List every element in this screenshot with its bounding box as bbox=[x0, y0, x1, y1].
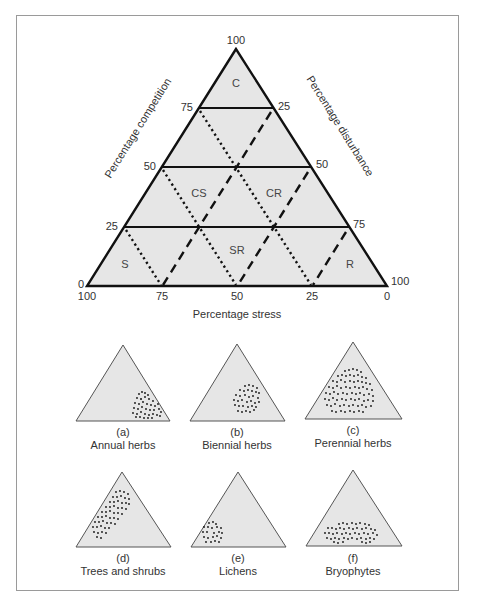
tick-stress-75: 75 bbox=[156, 290, 168, 302]
zone-sr: SR bbox=[229, 244, 244, 256]
tick-stress-100: 100 bbox=[78, 290, 96, 302]
tick-disturbance-50: 50 bbox=[316, 158, 328, 170]
zone-r: R bbox=[346, 258, 354, 270]
panel-trees-and-shrubs: (d) Trees and shrubs bbox=[76, 472, 171, 577]
tick-stress-50: 50 bbox=[231, 290, 243, 302]
panel-label: Lichens bbox=[219, 565, 257, 577]
tick-disturbance-25: 25 bbox=[278, 100, 290, 112]
panel-letter: (b) bbox=[230, 426, 243, 438]
panel-letter: (d) bbox=[116, 552, 129, 564]
zone-cs: CS bbox=[191, 187, 206, 199]
panel-bryophytes: (f) Bryophytes bbox=[306, 470, 402, 577]
zone-c: C bbox=[232, 77, 240, 89]
panel-label: Trees and shrubs bbox=[80, 565, 166, 577]
csr-figure: 100 75 50 25 0 25 50 75 100 100 75 50 25… bbox=[0, 0, 481, 605]
axis-stress-label: Percentage stress bbox=[193, 308, 282, 320]
panel-label: Biennial herbs bbox=[202, 439, 272, 451]
tick-stress-25: 25 bbox=[306, 290, 318, 302]
panel-biennial-herbs: (b) Biennial herbs bbox=[190, 344, 285, 451]
zone-s: S bbox=[121, 258, 128, 270]
tick-competition-75: 75 bbox=[181, 101, 193, 113]
tick-disturbance-75: 75 bbox=[353, 218, 365, 230]
panel-letter: (f) bbox=[348, 552, 358, 564]
panel-label: Perennial herbs bbox=[314, 437, 392, 449]
panel-label: Bryophytes bbox=[325, 565, 381, 577]
panel-perennial-herbs: (c) Perennial herbs bbox=[305, 342, 402, 449]
panel-label: Annual herbs bbox=[91, 439, 156, 451]
tick-competition-25: 25 bbox=[106, 220, 118, 232]
tick-competition-50: 50 bbox=[144, 160, 156, 172]
tick-apex: 100 bbox=[227, 34, 245, 46]
panel-lichens: (e) Lichens bbox=[191, 472, 286, 577]
panel-letter: (a) bbox=[116, 426, 129, 438]
tick-disturbance-100: 100 bbox=[391, 275, 409, 287]
panel-letter: (c) bbox=[347, 424, 360, 436]
panel-annual-herbs: (a) Annual herbs bbox=[76, 345, 170, 451]
zone-cr: CR bbox=[266, 187, 282, 199]
tick-stress-0: 0 bbox=[384, 290, 390, 302]
panel-letter: (e) bbox=[231, 552, 244, 564]
tick-competition-0: 0 bbox=[78, 278, 84, 290]
